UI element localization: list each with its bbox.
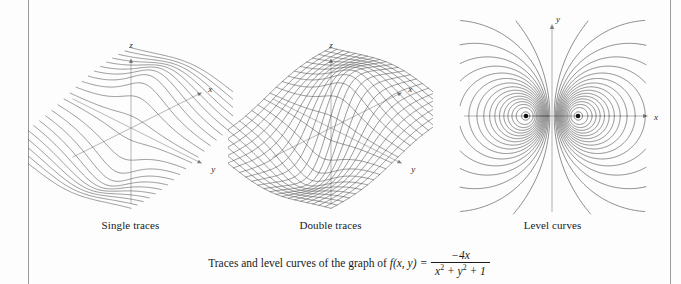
caption-function-name: f(x, y): [390, 257, 417, 269]
critical-point-dot: [524, 114, 529, 119]
double-traces-plot: xyz: [228, 16, 433, 216]
panel-level-curves: xy: [440, 16, 665, 216]
caption-lead-text: Traces and level curves of the graph of: [208, 257, 390, 269]
caption-double-traces: Double traces: [228, 219, 433, 231]
textbook-figure: xyz xyz xy Single traces Double traces L…: [0, 0, 681, 284]
axis-label-z: z: [328, 40, 333, 50]
panel-double-traces: xyz: [228, 16, 433, 216]
caption-fraction: −4x x2 + y2 + 1: [431, 249, 490, 278]
caption-denominator: x2 + y2 + 1: [431, 263, 490, 277]
level-curves-plot: xy: [440, 16, 665, 216]
caption-numerator: −4x: [446, 249, 475, 262]
axis-label-x: x: [653, 112, 658, 122]
critical-point-dot: [576, 114, 581, 119]
single-traces-plot: xyz: [28, 16, 233, 216]
page-margin-rule-right: [670, 0, 671, 284]
panel-single-traces: xyz: [28, 16, 233, 216]
axis-label-x: x: [207, 84, 212, 94]
axis-label-y: y: [555, 16, 560, 24]
caption-level-curves: Level curves: [440, 219, 665, 231]
caption-single-traces: Single traces: [28, 219, 233, 231]
axis-label-y: y: [410, 164, 415, 174]
caption-equals-sign: =: [417, 257, 432, 269]
axis-label-z: z: [128, 40, 133, 50]
axis-label-x: x: [407, 84, 412, 94]
axis-label-y: y: [210, 164, 215, 174]
figure-main-caption: Traces and level curves of the graph of …: [28, 249, 670, 278]
